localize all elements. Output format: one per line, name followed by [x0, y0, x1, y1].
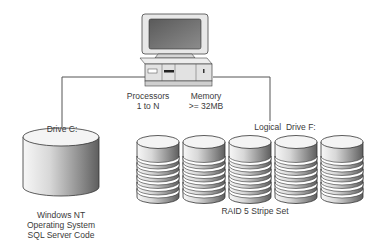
- desktop-computer-icon: [140, 14, 212, 86]
- diagram-canvas: Processors 1 to N Memory >= 32MB Drive C…: [0, 0, 379, 249]
- striped-disk-icon: [229, 136, 271, 204]
- raid-disk-group: [137, 136, 363, 204]
- drive-c-line-1: Windows NT: [20, 210, 102, 220]
- disk-top: [275, 136, 317, 149]
- memory-label: Memory >= 32MB: [178, 91, 234, 111]
- drive-c-line-3: SQL Server Code: [20, 230, 102, 240]
- processors-value: 1 to N: [118, 101, 178, 111]
- processors-label: Processors 1 to N: [118, 91, 178, 111]
- drive-c-contents: Windows NT Operating System SQL Server C…: [20, 210, 102, 240]
- disk-top: [321, 136, 363, 149]
- drive-c-label: Drive C:: [34, 124, 90, 134]
- disk-top: [137, 136, 179, 149]
- disk-top: [229, 136, 271, 149]
- striped-disk-icon: [321, 136, 363, 204]
- memory-title: Memory: [178, 91, 234, 101]
- single-disk-icon: [23, 128, 99, 196]
- striped-disk-icon: [275, 136, 317, 204]
- raid-caption: RAID 5 Stripe Set: [210, 206, 300, 216]
- memory-value: >= 32MB: [178, 101, 234, 111]
- drive-c-line-2: Operating System: [20, 220, 102, 230]
- processors-title: Processors: [118, 91, 178, 101]
- striped-disk-icon: [137, 136, 179, 204]
- striped-disk-icon: [183, 136, 225, 204]
- disk-top: [183, 136, 225, 149]
- drive-f-label: Logical Drive F:: [240, 122, 330, 132]
